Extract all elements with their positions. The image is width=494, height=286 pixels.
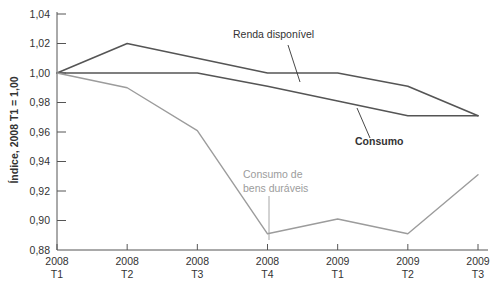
y-tick-label: 0,98: [30, 96, 51, 108]
y-tick-label: 0,90: [30, 214, 51, 226]
y-tick-label: 1,02: [30, 37, 51, 49]
x-tick-label-quarter: T2: [121, 268, 133, 280]
x-tick-label-quarter: T3: [472, 268, 484, 280]
x-tick-label-quarter: T3: [191, 268, 203, 280]
y-tick-label: 1,00: [30, 67, 51, 79]
annotation-label-consumo: Consumo: [355, 135, 403, 147]
y-tick-label: 0,88: [30, 244, 51, 256]
line-chart-canvas: 0,880,900,920,940,960,981,001,021,04 200…: [0, 0, 494, 286]
x-tick-label-year: 2009: [396, 255, 420, 267]
annotation-label-consumo-bens-duraveis-line1: Consumo de: [243, 168, 303, 180]
y-tick-label: 1,04: [30, 8, 51, 20]
x-tick-label-year: 2009: [466, 255, 490, 267]
y-axis-title-group: Índice, 2008 T1 = 1,00: [8, 76, 20, 183]
y-axis-title: Índice, 2008 T1 = 1,00: [8, 76, 20, 183]
annotation-label-consumo-bens-duraveis-line2: bens duráveis: [243, 182, 308, 194]
x-tick-label-quarter: T4: [261, 268, 273, 280]
annotation-label-renda-disponivel: Renda disponível: [233, 28, 314, 40]
x-tick-label-year: 2008: [115, 255, 139, 267]
x-tick-label-year: 2008: [186, 255, 210, 267]
plot-background: [0, 0, 494, 286]
x-tick-label-year: 2008: [45, 255, 69, 267]
x-tick-label-quarter: T2: [402, 268, 414, 280]
y-tick-label: 0,92: [30, 185, 51, 197]
x-tick-label-year: 2008: [256, 255, 280, 267]
x-tick-label-quarter: T1: [332, 268, 344, 280]
chart-figure: 0,880,900,920,940,960,981,001,021,04 200…: [0, 0, 494, 286]
y-tick-label: 0,94: [30, 155, 51, 167]
y-axis-tick-labels: 0,880,900,920,940,960,981,001,021,04: [30, 8, 51, 256]
x-tick-label-quarter: T1: [51, 268, 63, 280]
x-tick-label-year: 2009: [326, 255, 350, 267]
y-tick-label: 0,96: [30, 126, 51, 138]
